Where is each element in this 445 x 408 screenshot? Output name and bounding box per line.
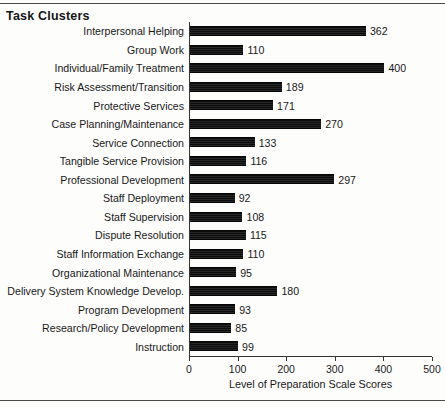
x-tick-mark xyxy=(383,357,384,361)
bar-row: Program Development93 xyxy=(189,300,432,319)
bar xyxy=(190,249,243,259)
bar-row: Dispute Resolution115 xyxy=(189,226,432,245)
bar-value-label: 133 xyxy=(259,137,277,149)
category-label: Tangible Service Provision xyxy=(60,155,184,167)
bar xyxy=(190,193,235,203)
bar-row: Staff Supervision108 xyxy=(189,208,432,227)
bar xyxy=(190,174,334,184)
bar-value-label: 93 xyxy=(239,304,251,316)
bar xyxy=(190,230,246,240)
bar-row: Organizational Maintenance95 xyxy=(189,263,432,282)
bar xyxy=(190,286,277,296)
bar xyxy=(190,100,273,110)
category-label: Delivery System Knowledge Develop. xyxy=(7,285,184,297)
category-label: Dispute Resolution xyxy=(95,229,184,241)
bar-value-label: 108 xyxy=(246,211,264,223)
bar-row: Professional Development297 xyxy=(189,170,432,189)
category-label: Case Planning/Maintenance xyxy=(51,118,184,130)
category-label: Service Connection xyxy=(92,137,184,149)
bar-value-label: 400 xyxy=(388,62,406,74)
bar-value-label: 110 xyxy=(247,248,264,260)
x-tick-mark xyxy=(432,357,433,361)
bar xyxy=(190,267,236,277)
bar xyxy=(190,156,246,166)
page-title: Task Clusters xyxy=(6,9,90,23)
bar-row: Instruction99 xyxy=(189,337,432,356)
category-label: Professional Development xyxy=(60,174,184,186)
category-label: Organizational Maintenance xyxy=(52,267,184,279)
bar-value-label: 180 xyxy=(281,285,299,297)
x-tick-label: 200 xyxy=(277,363,295,375)
chart-figure: Task Clusters 0100200300400500 Interpers… xyxy=(0,0,445,408)
bar-value-label: 99 xyxy=(242,341,254,353)
bottom-divider-rule xyxy=(0,400,445,401)
bar xyxy=(190,323,231,333)
x-axis-title: Level of Preparation Scale Scores xyxy=(189,378,432,390)
bar xyxy=(190,82,282,92)
bar-row: Risk Assessment/Transition189 xyxy=(189,78,432,97)
bar-value-label: 115 xyxy=(250,229,267,241)
x-tick-label: 300 xyxy=(326,363,344,375)
bar-row: Service Connection133 xyxy=(189,133,432,152)
plot-area: 0100200300400500 Interpersonal Helping36… xyxy=(189,22,432,356)
bar-value-label: 362 xyxy=(370,25,388,37)
bar-row: Staff Information Exchange110 xyxy=(189,245,432,264)
category-label: Risk Assessment/Transition xyxy=(54,81,184,93)
bar xyxy=(190,137,255,147)
bar xyxy=(190,45,243,55)
bar-row: Tangible Service Provision116 xyxy=(189,152,432,171)
bar-row: Staff Deployment92 xyxy=(189,189,432,208)
category-label: Research/Policy Development xyxy=(42,322,184,334)
bar-value-label: 95 xyxy=(240,267,252,279)
bar xyxy=(190,63,384,73)
category-label: Instruction xyxy=(135,341,184,353)
bar-row: Individual/Family Treatment400 xyxy=(189,59,432,78)
bar-value-label: 92 xyxy=(239,192,251,204)
bar xyxy=(190,119,321,129)
bar-value-label: 171 xyxy=(277,100,295,112)
bar-row: Group Work110 xyxy=(189,41,432,60)
bar-value-label: 297 xyxy=(338,174,356,186)
bar-row: Research/Policy Development85 xyxy=(189,319,432,338)
category-label: Staff Deployment xyxy=(103,192,184,204)
category-label: Interpersonal Helping xyxy=(83,25,184,37)
x-tick-label: 0 xyxy=(186,363,192,375)
bar-value-label: 189 xyxy=(286,81,304,93)
x-tick-label: 500 xyxy=(423,363,441,375)
category-label: Staff Supervision xyxy=(104,211,184,223)
bar xyxy=(190,212,242,222)
category-label: Program Development xyxy=(78,304,184,316)
top-divider-rule xyxy=(0,3,445,4)
x-tick-mark xyxy=(286,357,287,361)
bar xyxy=(190,26,366,36)
category-label: Staff Information Exchange xyxy=(56,248,184,260)
x-tick-mark xyxy=(238,357,239,361)
bar xyxy=(190,341,238,351)
bar xyxy=(190,304,235,314)
bar-row: Delivery System Knowledge Develop.180 xyxy=(189,282,432,301)
bar-value-label: 270 xyxy=(325,118,343,130)
bar-row: Interpersonal Helping362 xyxy=(189,22,432,41)
bar-value-label: 85 xyxy=(235,322,247,334)
x-tick-label: 400 xyxy=(375,363,393,375)
category-label: Individual/Family Treatment xyxy=(54,62,184,74)
bar-row: Protective Services171 xyxy=(189,96,432,115)
x-tick-label: 100 xyxy=(229,363,247,375)
category-label: Protective Services xyxy=(93,100,184,112)
bar-row: Case Planning/Maintenance270 xyxy=(189,115,432,134)
category-label: Group Work xyxy=(127,44,184,56)
x-axis-line xyxy=(189,356,432,357)
x-tick-mark xyxy=(189,357,190,361)
bar-value-label: 110 xyxy=(247,44,264,56)
x-tick-mark xyxy=(335,357,336,361)
bar-value-label: 116 xyxy=(250,155,267,167)
